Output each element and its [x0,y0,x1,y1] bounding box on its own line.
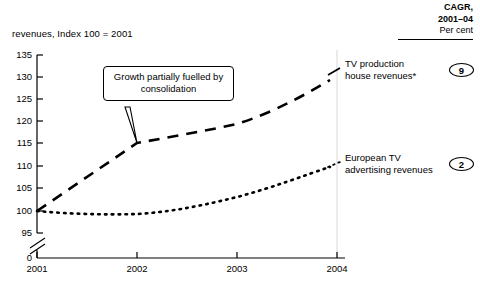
y-axis-label-100: 100 [6,206,32,216]
y-axis-label-0: 0 [6,253,32,263]
x-axis-label-2004: 2004 [317,264,357,274]
y-axis-label-95: 95 [6,228,32,238]
series-label-tv-production-line2: house revenues* [345,70,416,82]
leader-line-tv-advertising [328,162,340,167]
series-line-tv-advertising [37,167,330,214]
y-axis-label-110: 110 [6,161,32,171]
series-label-tv-production-line1: TV production [345,58,416,70]
annotation-callout: Growth partially fuelled by consolidatio… [103,66,234,101]
leader-line-tv-production [328,68,340,75]
cagr-badge-tv-advertising: 2 [449,157,474,171]
y-axis-label-115: 115 [6,138,32,148]
callout-pointer [125,107,137,143]
x-axis-label-2002: 2002 [117,264,157,274]
series-label-tv-advertising-line1: European TV [345,152,433,164]
y-axis-label-135: 135 [6,50,32,60]
series-label-tv-advertising-line2: advertising revenues [345,164,433,176]
y-axis-label-130: 130 [6,72,32,82]
plot-area [0,0,480,283]
y-axis-label-105: 105 [6,183,32,193]
x-axis-label-2001: 2001 [17,264,57,274]
y-axis-label-125: 125 [6,94,32,104]
series-label-tv-advertising: European TV advertising revenues [345,152,433,175]
chart-canvas: revenues, Index 100 = 2001 CAGR, 2001–04… [0,0,480,283]
series-label-tv-production: TV production house revenues* [345,58,416,81]
axis-break-mark-upper [30,238,45,248]
x-axis-label-2003: 2003 [217,264,257,274]
y-axis-label-120: 120 [6,116,32,126]
cagr-badge-tv-production: 9 [449,63,474,77]
